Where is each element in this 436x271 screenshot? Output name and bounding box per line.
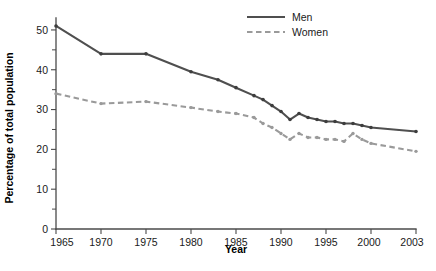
data-point [369,126,373,130]
y-axis-group: 01020304050 [36,18,56,235]
data-point [216,78,220,82]
data-point [270,126,273,129]
data-point [279,110,283,114]
data-point [270,104,274,108]
data-point [99,102,102,105]
series-layer [54,24,418,153]
x-tick-label: 1990 [269,236,293,248]
data-point [333,138,336,141]
y-tick-label: 0 [42,223,48,235]
line-chart: 01020304050 1965197019751980198519901995… [0,0,436,271]
y-tick-label: 10 [36,183,48,195]
data-point [144,52,148,56]
data-point [54,92,57,95]
data-point [351,132,354,135]
x-axis-ticks [56,229,416,234]
data-point [414,150,417,153]
x-tick-label: 1970 [89,236,113,248]
data-point [144,100,147,103]
y-axis-ticks [51,30,56,229]
legend-label-women: Women [292,26,328,38]
chart-legend: MenWomen [247,11,328,38]
data-point [252,94,256,98]
data-point [288,138,291,141]
x-tick-label: 2000 [357,236,381,248]
data-point [333,120,337,124]
y-axis-tick-labels: 01020304050 [36,24,48,235]
x-tick-label: 2003 [400,236,424,248]
data-point [342,122,346,126]
data-point [306,116,310,120]
data-point [369,142,372,145]
data-point [297,132,300,135]
data-point [360,138,363,141]
series-line-men [56,26,416,132]
data-point [261,122,264,125]
data-point [216,110,219,113]
data-point [324,138,327,141]
x-axis-title: Year [225,243,247,255]
data-point [288,118,292,122]
data-point [234,112,237,115]
y-tick-label: 20 [36,143,48,155]
legend-label-men: Men [292,11,313,23]
x-tick-label: 1980 [179,236,203,248]
data-point [414,130,418,134]
data-point [189,106,192,109]
data-point [315,118,319,122]
data-point [315,136,318,139]
chart-figure: 01020304050 1965197019751980198519901995… [0,0,436,271]
data-point [342,140,345,143]
data-point [324,120,328,124]
x-tick-label: 1965 [50,236,74,248]
data-point [306,136,309,139]
x-tick-label: 1975 [134,236,158,248]
y-tick-label: 40 [36,64,48,76]
series-line-women [56,94,416,152]
data-point [279,132,282,135]
data-point [252,116,255,119]
x-tick-label: 1995 [314,236,338,248]
y-tick-label: 30 [36,103,48,115]
data-point [261,98,265,102]
data-point [360,124,364,128]
data-point [234,86,238,90]
y-axis-title: Percentage of total population [3,52,15,203]
y-tick-label: 50 [36,24,48,36]
data-point [189,70,193,74]
data-point [351,122,355,126]
data-point [54,24,58,28]
data-point [297,112,301,116]
data-point [99,52,103,56]
